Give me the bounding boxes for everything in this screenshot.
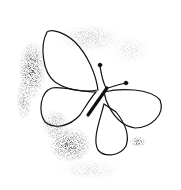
butterfly-svg <box>0 0 181 190</box>
antenna-left <box>100 66 106 88</box>
antenna-tip-left <box>98 63 102 67</box>
antenna-right <box>108 83 126 88</box>
antenna-tip-right <box>124 81 128 85</box>
butterfly-illustration <box>0 0 181 190</box>
spray-shading <box>16 24 150 180</box>
upper-right-wing <box>104 90 161 128</box>
